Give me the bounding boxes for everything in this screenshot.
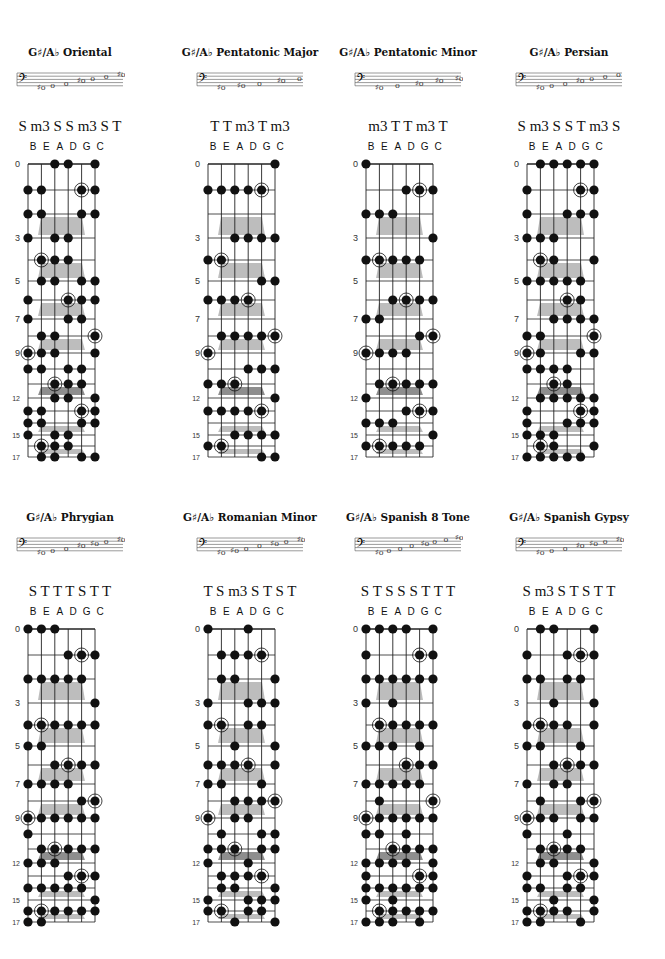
note-dot [90,906,99,915]
note-dot [549,858,558,867]
note-dot [90,720,99,729]
note-dot [563,276,572,285]
note-dot [244,364,253,373]
note-dot [415,813,424,822]
staff-note: ♯o [90,539,99,548]
note-dot [361,255,370,264]
interval-pattern: S m3 S S T m3 S [489,118,649,135]
note-dot [64,720,73,729]
note-dot [576,314,585,323]
note-dot [217,185,226,194]
interval-pattern: S T S S S T T T [328,583,488,600]
string-label-b: B [208,606,218,617]
fret-number: 15 [350,432,358,439]
note-dot [589,871,598,880]
note-dot [402,829,411,838]
note-dot [257,698,266,707]
note-dot [64,159,73,168]
note-dot [257,796,266,805]
note-dot [23,624,32,633]
note-dot [428,650,437,659]
note-dot [77,720,86,729]
note-dot [203,895,212,904]
note-dot [230,406,239,415]
root-dot [415,871,424,880]
bass-clef-icon: 𝄢 [356,536,365,552]
fret-number: 17 [192,919,200,926]
note-dot [576,209,585,218]
note-dot [217,379,226,388]
note-dot [230,741,239,750]
string-label-d: D [406,141,416,152]
note-dot [428,906,437,915]
note-dot [563,314,572,323]
note-dot [576,393,585,402]
note-dot [270,883,279,892]
note-dot [50,674,59,683]
note-dot [428,720,437,729]
note-dot [64,430,73,439]
fret-marker [38,263,85,278]
note-dot [230,760,239,769]
note-dot [64,233,73,242]
interval-pattern: S m3 S S m3 S T [0,118,150,135]
note-dot [402,255,411,264]
root-dot [536,906,545,915]
note-dot [50,720,59,729]
string-label-d: D [68,606,78,617]
note-dot [361,895,370,904]
string-label-a: A [235,606,245,617]
fret-marker [218,303,265,316]
note-dot [361,858,370,867]
interval-pattern: T S m3 S T S T [170,583,330,600]
note-dot [50,813,59,822]
note-dot [270,760,279,769]
note-dot [589,906,598,915]
fretboard: 03579121517 [348,164,468,474]
note-dot [361,829,370,838]
fret-number: 17 [12,919,20,926]
staff-note: ♯o [415,79,424,88]
root-dot [257,406,266,415]
note-dot [77,844,86,853]
staff-note: ♯o [117,535,125,544]
note-dot [23,883,32,892]
note-dot [217,844,226,853]
string-label-g: G [581,141,591,152]
note-dot [536,159,545,168]
note-dot [589,441,598,450]
fret-number: 9 [514,348,519,358]
fretboard: 03579121517 [10,629,130,939]
note-dot [563,650,572,659]
note-dot [64,255,73,264]
note-dot [270,895,279,904]
staff-note: o [549,81,554,90]
note-dot [589,314,598,323]
note-dot [361,674,370,683]
string-label-d: D [567,606,577,617]
string-label-c: C [95,606,105,617]
root-dot [37,255,46,264]
fret-marker [537,891,584,897]
note-dot [244,895,253,904]
interval-pattern: T T m3 T m3 [170,118,330,135]
note-dot [77,295,86,304]
note-dot [77,209,86,218]
string-label-b: B [527,141,537,152]
note-dot [203,844,212,853]
fret-marker [376,426,423,432]
fret-marker [218,852,265,860]
note-dot [549,393,558,402]
root-dot [217,906,226,915]
note-dot [244,650,253,659]
note-dot [522,276,531,285]
note-dot [50,906,59,915]
staff-note: o [257,541,262,550]
scale-title: G♯/A♭ Spanish Gypsy [489,511,649,523]
note-dot [50,331,59,340]
note-dot [64,844,73,853]
string-label-d: D [248,606,258,617]
staff-note: o [297,74,302,83]
bass-clef-icon: 𝄢 [517,536,526,552]
root-dot [375,720,384,729]
